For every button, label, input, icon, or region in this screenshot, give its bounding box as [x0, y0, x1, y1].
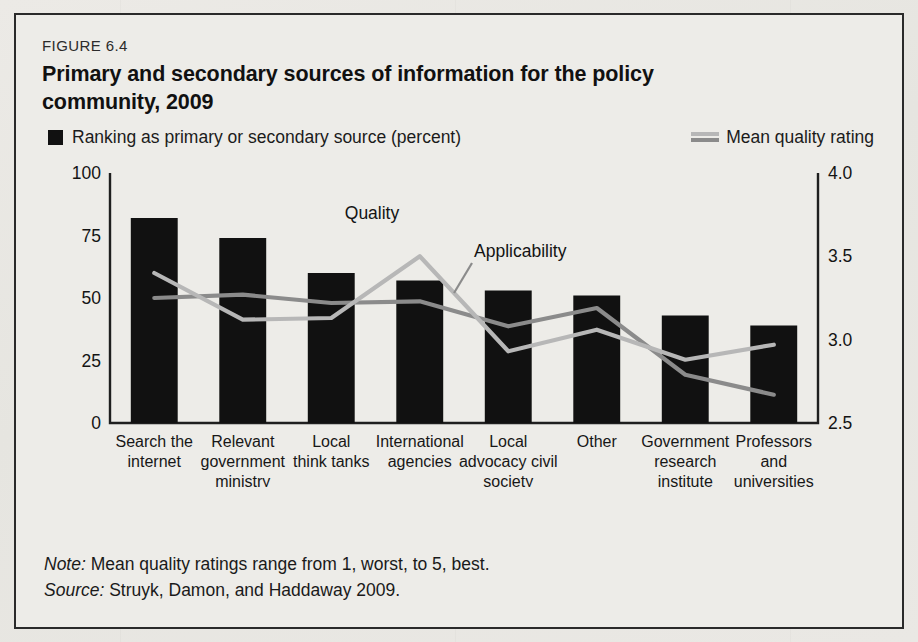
category-label-line: Professors [736, 433, 812, 450]
category-label-line: agencies [388, 453, 452, 470]
annotation-leader-applicability [454, 263, 472, 293]
line-annotations: QualityApplicability [345, 203, 567, 293]
left-tick-50: 50 [82, 288, 102, 308]
category-label-line: Other [577, 433, 618, 450]
category-label-line: universities [734, 473, 814, 487]
category-label-line: research [654, 453, 716, 470]
source-text: Struyk, Damon, and Haddaway 2009. [104, 580, 400, 600]
left-tick-100: 100 [72, 163, 101, 183]
figure-frame: FIGURE 6.4 Primary and secondary sources… [14, 13, 904, 629]
source-prefix: Source: [44, 580, 104, 600]
category-label-line: Government [641, 433, 730, 450]
figure-card: FIGURE 6.4 Primary and secondary sources… [0, 0, 918, 642]
legend-line-label: Mean quality rating [726, 127, 874, 148]
right-axis-tick-labels: 2.53.03.54.0 [828, 163, 853, 433]
category-label-2: Localthink tanks [293, 433, 369, 470]
category-label-6: Governmentresearchinstitute [641, 433, 730, 487]
category-label-line: International [376, 433, 464, 450]
left-tick-0: 0 [91, 413, 101, 433]
bar-swatch-icon [48, 130, 63, 145]
bar-5 [573, 296, 620, 424]
chart-axes [110, 173, 818, 423]
category-label-line: institute [658, 473, 713, 487]
chart-plot-area: 0255075100 2.53.03.54.0 QualityApplicabi… [42, 157, 896, 487]
figure-number: FIGURE 6.4 [42, 37, 878, 54]
annotation-applicability: Applicability [474, 241, 567, 261]
left-axis-tick-labels: 0255075100 [72, 163, 101, 433]
bar-6 [662, 316, 709, 424]
category-label-3: Internationalagencies [376, 433, 464, 470]
bar-4 [485, 291, 532, 424]
category-label-line: and [760, 453, 787, 470]
note-prefix: Note: [44, 554, 86, 574]
category-label-line: Local [489, 433, 527, 450]
category-label-line: think tanks [293, 453, 369, 470]
category-label-1: Relevantgovernmentministry [201, 433, 286, 487]
bar-1 [219, 238, 266, 423]
category-label-7: Professorsanduniversities [734, 433, 814, 487]
left-tick-25: 25 [82, 351, 101, 371]
category-label-line: Relevant [211, 433, 275, 450]
bar-0 [131, 218, 178, 423]
right-tick-4.0: 4.0 [828, 163, 853, 183]
right-tick-3.0: 3.0 [828, 330, 853, 350]
legend-bar-label: Ranking as primary or secondary source (… [72, 127, 461, 148]
figure-title: Primary and secondary sources of informa… [42, 61, 742, 117]
category-label-line: Local [312, 433, 350, 450]
bar-series [131, 218, 797, 423]
category-label-line: Search the [116, 433, 193, 450]
bar-7 [750, 326, 797, 424]
right-tick-2.5: 2.5 [828, 413, 852, 433]
left-tick-75: 75 [82, 226, 101, 246]
category-label-line: internet [128, 453, 182, 470]
category-label-line: government [201, 453, 286, 470]
legend-item-line: Mean quality rating [691, 127, 874, 148]
source-line: Source: Struyk, Damon, and Haddaway 2009… [44, 578, 490, 603]
right-tick-3.5: 3.5 [828, 246, 852, 266]
category-label-5: Other [577, 433, 618, 450]
annotation-quality: Quality [345, 203, 400, 223]
chart-legend: Ranking as primary or secondary source (… [42, 127, 876, 153]
category-axis-labels: Search theinternetRelevantgovernmentmini… [116, 433, 814, 487]
chart-svg: 0255075100 2.53.03.54.0 QualityApplicabi… [42, 157, 896, 487]
category-label-line: society [483, 473, 533, 487]
legend-item-bar: Ranking as primary or secondary source (… [48, 127, 461, 148]
line-swatch-icon [691, 131, 719, 144]
bar-2 [308, 273, 355, 423]
note-line: Note: Mean quality ratings range from 1,… [44, 552, 490, 577]
category-label-line: ministry [215, 473, 270, 487]
category-label-0: Search theinternet [116, 433, 193, 470]
note-text: Mean quality ratings range from 1, worst… [86, 554, 490, 574]
category-label-line: advocacy civil [459, 453, 558, 470]
category-label-4: Localadvocacy civilsocietyorganizations [459, 433, 558, 487]
figure-footnotes: Note: Mean quality ratings range from 1,… [44, 552, 490, 603]
